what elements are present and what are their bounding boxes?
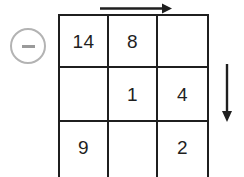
cell-value: 2: [177, 138, 188, 157]
grid-cell-r1c3[interactable]: [158, 16, 207, 68]
grid-cell-r2c2[interactable]: 1: [109, 68, 158, 122]
number-grid: 14 8 1 4 9 2: [58, 14, 209, 177]
grid-cell-r3c1[interactable]: 9: [60, 122, 109, 177]
grid-cell-r2c3[interactable]: 4: [158, 68, 207, 122]
arrow-down-icon: [216, 64, 238, 124]
cell-value: 9: [78, 138, 89, 157]
cell-value: 14: [72, 32, 94, 51]
grid-cell-r3c2[interactable]: [109, 122, 158, 177]
cell-value: 4: [177, 85, 188, 104]
grid-cell-r2c1[interactable]: [60, 68, 109, 122]
cell-value: 1: [127, 85, 138, 104]
grid-cell-r3c3[interactable]: 2: [158, 122, 207, 177]
grid-cell-r1c1[interactable]: 14: [60, 16, 109, 68]
cell-value: 8: [127, 32, 138, 51]
puzzle-canvas: − 14 8 1 4: [0, 0, 244, 177]
grid-cell-r1c2[interactable]: 8: [109, 16, 158, 68]
minus-icon: −: [22, 45, 35, 48]
operator-badge-minus[interactable]: −: [10, 28, 46, 64]
